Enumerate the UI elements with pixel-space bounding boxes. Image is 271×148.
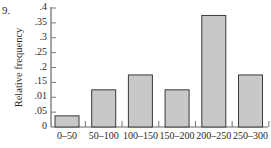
x-tick-label: 100–150	[120, 130, 160, 141]
bar-100–150	[128, 75, 152, 127]
x-tick-label: 50–100	[84, 130, 124, 141]
bar-chart-plot	[0, 0, 270, 148]
bar-200–250	[202, 15, 226, 127]
bar-150–200	[165, 90, 189, 127]
bar-250–300	[239, 75, 263, 127]
bar-50–100	[92, 90, 116, 127]
x-tick-label: 0–50	[47, 130, 87, 141]
x-tick-label: 200–250	[194, 130, 234, 141]
x-tick-label: 250–300	[231, 130, 271, 141]
x-tick-label: 150–200	[157, 130, 197, 141]
bar-0–50	[55, 116, 79, 127]
